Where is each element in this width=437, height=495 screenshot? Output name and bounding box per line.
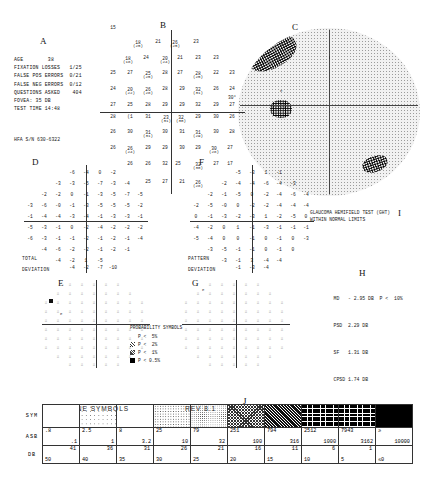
pd-prob-point: ∷ (257, 327, 259, 332)
pd-prob-point: ∷ (269, 327, 271, 332)
greytone-pattern-icon (154, 405, 190, 427)
probability-legend-label-2pct: P < 2% (138, 342, 157, 347)
td-prob-point: ∷ (129, 291, 131, 296)
pd-prob-point: ∷ (233, 309, 235, 314)
pattern-deviation-value: -4 (276, 258, 282, 263)
pd-prob-point: ∷ (209, 336, 211, 341)
ght-result-block: GLAUCOMA HEMIFIELD TEST (GHT) WITHIN NOR… (310, 209, 390, 223)
pattern-deviation-value: -4 (263, 258, 269, 263)
td-prob-point: ∷ (93, 300, 95, 305)
td-prob-point: ∷ (57, 300, 59, 305)
pattern-deviation-value: -4 (249, 181, 255, 186)
td-prob-point: ∷ (69, 291, 71, 296)
pattern-deviation-value: -4 (276, 192, 282, 197)
pd-prob-point: ∷ (209, 354, 211, 359)
td-prob-point: ∷ (57, 309, 59, 314)
pattern-deviation-value: 0 (195, 214, 198, 219)
greytone-db-cell: 3135 (117, 446, 154, 464)
greytone-db-upper: 6 (332, 446, 335, 452)
greytone-asb-cell: ≥10000 (376, 428, 413, 446)
pattern-deviation-value: -4 (235, 181, 241, 186)
td-prob-point: ∷ (117, 362, 119, 367)
greytone-pattern-icon (43, 405, 79, 427)
td-prob-point: ∷ (105, 300, 107, 305)
pd-prob-point: ∷ (197, 327, 199, 332)
pattern-deviation-probability-plot: e ∷∷∷∷∷∷∷∷∷∷∷∷∷∷∷∷∷∷∷∷∷∷∷∷∷∷∷∷∷∷∷∷∷∷∷∷∷∷… (180, 276, 292, 370)
td-prob-point: ∷ (117, 327, 119, 332)
pattern-deviation-value: -6 (290, 192, 296, 197)
td-prob-point: ∷ (81, 282, 83, 287)
td-prob-point: ∷ (93, 309, 95, 314)
td-prob-significant-point (49, 299, 53, 303)
pd-prob-point: ∷ (233, 362, 235, 367)
greytone-db-cell: 1620 (228, 446, 265, 464)
pattern-deviation-value: -1 (235, 265, 241, 270)
greytone-symbol-swatch (117, 405, 154, 428)
greytone-pattern-icon (117, 405, 153, 427)
td-prob-point: ∷ (57, 291, 59, 296)
index-value-cpsd: 1.74 DB (348, 377, 368, 382)
pattern-deviation-value: -1 (303, 225, 309, 230)
td-prob-point: ∷ (57, 318, 59, 323)
td-prob-point: ∷ (105, 327, 107, 332)
pattern-deviation-value: -3 (303, 236, 309, 241)
pd-prob-marker: e (202, 288, 204, 292)
pd-prob-point: ∷ (197, 309, 199, 314)
pattern-deviation-value: -1 (276, 170, 282, 175)
greytone-pattern-icon (80, 405, 116, 427)
pd-prob-point: ∷ (197, 300, 199, 305)
probability-symbol-2pct-icon (130, 342, 135, 347)
pattern-deviation-value: -2 (263, 192, 269, 197)
index-name-psd: PSD (334, 323, 343, 328)
index-row-psd: PSD 2.29 DB (322, 312, 403, 339)
greytone-asb-lower: 3.2 (142, 439, 151, 445)
pd-prob-point: ∷ (221, 362, 223, 367)
pd-prob-point: ∷ (257, 354, 259, 359)
pattern-deviation-value: 0 (223, 236, 226, 241)
pattern-deviation-value: -1 (207, 214, 213, 219)
td-prob-point: ∷ (117, 282, 119, 287)
td-prob-point: ∷ (129, 309, 131, 314)
pattern-deviation-value: -2 (207, 192, 213, 197)
greytone-symbol-swatch (154, 405, 191, 428)
td-prob-point: ∷ (129, 318, 131, 323)
pd-prob-point: ∷ (245, 345, 247, 350)
greytone-pattern-icon (265, 405, 301, 427)
pd-prob-point: ∷ (257, 336, 259, 341)
greytone-asb-cell: 2.51 (80, 428, 117, 446)
pd-prob-point: ∷ (257, 309, 259, 314)
pattern-deviation-value: -3 (249, 265, 255, 270)
pd-prob-point: ∷ (233, 318, 235, 323)
td-prob-point: ∷ (105, 309, 107, 314)
greytone-db-lower: 10 (304, 457, 310, 463)
td-prob-point: ∷ (45, 300, 47, 305)
pd-prob-point: ∷ (185, 318, 187, 323)
index-value-psd: 2.29 DB (348, 323, 368, 328)
td-prob-point: ∷ (57, 327, 59, 332)
greytone-asb-cell: 7932 (191, 428, 228, 446)
pd-prob-point: ∷ (221, 291, 223, 296)
pd-prob-point: ∷ (269, 291, 271, 296)
pd-prob-point: ∷ (245, 362, 247, 367)
pattern-deviation-value: 1 (237, 225, 240, 230)
pattern-deviation-value: -2 (249, 203, 255, 208)
td-prob-point: ∷ (45, 318, 47, 323)
pd-prob-point: ∷ (281, 300, 283, 305)
pd-prob-point: ∷ (233, 345, 235, 350)
greytone-row-db: DB 415036403135263021251620111561015≤0 (22, 446, 413, 464)
pd-prob-point: ∷ (209, 300, 211, 305)
greytone-asb-lower: 10 (182, 439, 188, 445)
probability-legend-row-2pct: P < 2% (130, 340, 182, 348)
greytone-db-cell: 3640 (80, 446, 117, 464)
pd-prob-point: ∷ (281, 309, 283, 314)
greytone-asb-cell: 794316 (265, 428, 302, 446)
pattern-deviation-value: -1 (290, 225, 296, 230)
pattern-deviation-title-1: PATTERN (188, 256, 209, 261)
pattern-deviation-value: 0 (237, 236, 240, 241)
greytone-db-cell: 2125 (191, 446, 228, 464)
greytone-asb-lower: 1 (111, 439, 114, 445)
pd-prob-point: ∷ (281, 336, 283, 341)
greytone-pattern-icon (191, 405, 227, 427)
pattern-deviation-value: 0 (265, 247, 268, 252)
pd-prob-point: ∷ (221, 327, 223, 332)
